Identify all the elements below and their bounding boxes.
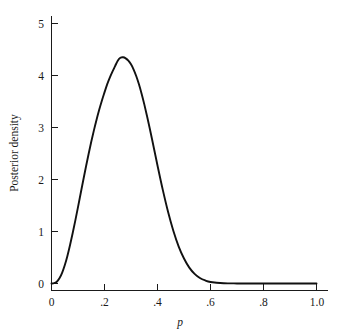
y-tick-label-4: 4 [38,70,44,82]
x-axis-title: p [176,316,183,329]
posterior-density-curve [52,57,317,283]
y-axis-ticks [52,24,59,284]
x-tick-label-0-4: .4 [153,296,162,308]
y-tick-label-0: 0 [38,278,44,290]
x-axis-tick-labels: 0 .2 .4 .6 .8 1.0 [49,296,325,308]
x-tick-label-0: 0 [49,296,55,308]
x-tick-label-0-6: .6 [206,296,215,308]
y-tick-label-1: 1 [38,226,44,238]
x-axis-ticks [52,284,317,291]
x-tick-label-1-0: 1.0 [310,296,325,308]
y-axis-tick-labels: 5 4 3 2 1 0 [38,18,44,290]
y-tick-label-5: 5 [38,18,44,30]
x-tick-label-0-2: .2 [100,296,109,308]
y-tick-label-2: 2 [38,174,44,186]
chart-canvas: 5 4 3 2 1 0 0 .2 .4 .6 .8 1.0 p Posterio… [0,0,350,336]
x-tick-label-0-8: .8 [259,296,268,308]
posterior-density-figure: 5 4 3 2 1 0 0 .2 .4 .6 .8 1.0 p Posterio… [0,0,350,336]
y-tick-label-3: 3 [38,122,44,134]
y-axis-title: Posterior density [8,114,21,192]
